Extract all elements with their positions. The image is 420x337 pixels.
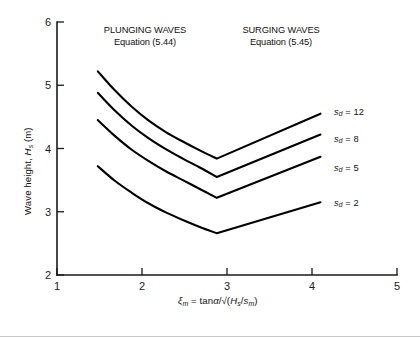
annotation-surging-waves: SURGING WAVES Equation (5.45) — [222, 24, 340, 49]
y-tick-label-6: 6 — [45, 16, 51, 28]
curve-sd-2 — [98, 166, 321, 233]
series-value-sd-12: 12 — [353, 107, 364, 117]
axes-group — [57, 22, 397, 275]
y-tick-label-3: 3 — [45, 206, 51, 218]
series-eq-sd-12: = — [343, 107, 354, 117]
series-eq-sd-8: = — [343, 134, 354, 144]
annotation-plunging-line1: PLUNGING WAVES — [86, 24, 204, 36]
y-tick-label-5: 5 — [45, 79, 51, 91]
x-axis-title: ξm = tanα/√(Hs/sm) — [178, 295, 258, 307]
x-tick-label-5: 5 — [394, 280, 400, 292]
x-tick-label-2: 2 — [139, 280, 145, 292]
annotation-surging-line2: Equation (5.45) — [222, 36, 340, 48]
y-axis-title: Wave height, Hs (m) — [22, 127, 34, 215]
y-tick-label-2: 2 — [45, 269, 51, 281]
series-eq-sd-2: = — [343, 198, 354, 208]
x-tick-label-3: 3 — [224, 280, 230, 292]
curve-sd-5 — [98, 120, 321, 198]
series-label-sd-5: sd = 5 — [334, 163, 359, 173]
series-label-sd-12: sd = 12 — [334, 107, 364, 117]
annotation-surging-line1: SURGING WAVES — [222, 24, 340, 36]
y-axis-title-prefix: Wave height, — [22, 155, 33, 215]
y-axis-title-suffix: (m) — [22, 127, 33, 144]
series-eq-sd-5: = — [343, 163, 354, 173]
series-value-sd-5: 5 — [353, 163, 358, 173]
series-value-sd-8: 8 — [353, 134, 358, 144]
x-tick-label-4: 4 — [309, 280, 315, 292]
curve-sd-12 — [98, 71, 321, 158]
tick-labels-group: 2345612345 — [45, 16, 400, 292]
y-tick-label-4: 4 — [45, 143, 51, 155]
curves-group — [98, 71, 321, 233]
wave-height-chart-figure: 2345612345 PLUNGING WAVES Equation (5.44… — [0, 0, 420, 337]
x-axis-title-mid: = tan — [188, 295, 213, 306]
series-label-sd-2: sd = 2 — [334, 198, 359, 208]
y-axis-title-symbol: H — [22, 148, 33, 155]
x-tick-label-1: 1 — [54, 280, 60, 292]
annotation-plunging-waves: PLUNGING WAVES Equation (5.44) — [86, 24, 204, 49]
y-axis-title-subscript: s — [27, 145, 34, 149]
series-value-sd-2: 2 — [353, 198, 358, 208]
annotation-plunging-line2: Equation (5.44) — [86, 36, 204, 48]
ticks-group — [57, 22, 397, 275]
x-axis-title-close-paren: ) — [254, 295, 257, 306]
series-label-sd-8: sd = 8 — [334, 134, 359, 144]
